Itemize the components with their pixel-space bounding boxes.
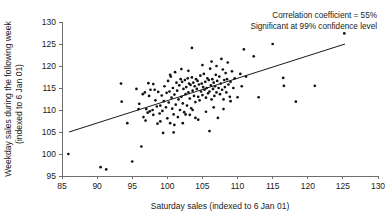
scatter-point — [282, 77, 285, 80]
scatter-point — [160, 94, 163, 97]
scatter-point — [179, 78, 182, 81]
scatter-point — [149, 88, 152, 91]
scatter-point — [157, 91, 160, 94]
scatter-point — [198, 99, 201, 102]
scatter-point — [252, 55, 255, 58]
scatter-point — [207, 79, 210, 82]
scatter-point — [239, 73, 242, 76]
scatter-point — [186, 104, 189, 107]
scatter-point — [203, 73, 206, 76]
scatter-point — [222, 98, 225, 101]
scatter-point — [212, 106, 215, 109]
scatter-chart: 95100105110115120125130 8590951001051101… — [0, 0, 390, 215]
scatter-point — [228, 95, 231, 98]
scatter-point — [231, 70, 234, 73]
y-tick-label: 120 — [42, 61, 56, 71]
x-tick-label: 95 — [127, 181, 137, 191]
scatter-point — [215, 91, 218, 94]
scatter-point — [220, 58, 223, 61]
scatter-point — [193, 85, 196, 88]
scatter-point — [151, 109, 154, 112]
scatter-point — [208, 130, 211, 133]
scatter-point — [294, 100, 297, 103]
scatter-point — [195, 88, 198, 91]
scatter-point — [148, 110, 151, 113]
scatter-point — [232, 87, 235, 90]
scatter-point — [214, 73, 217, 76]
scatter-point — [172, 113, 175, 116]
scatter-point — [211, 78, 214, 81]
scatter-point — [243, 48, 246, 51]
x-tick-label: 105 — [195, 181, 209, 191]
x-tick-label: 120 — [301, 181, 315, 191]
axes-group: 95100105110115120125130 8590951001051101… — [42, 17, 386, 191]
scatter-point — [173, 124, 176, 127]
scatter-point — [167, 101, 170, 104]
scatter-point — [174, 71, 177, 74]
scatter-point — [99, 166, 102, 169]
scatter-point — [229, 100, 232, 103]
scatter-point — [205, 110, 208, 113]
scatter-point — [194, 117, 197, 120]
scatter-point — [216, 80, 219, 83]
scatter-point — [224, 86, 227, 89]
scatter-point — [215, 65, 218, 68]
scatter-point — [153, 88, 156, 91]
y-tick-label: 130 — [42, 17, 56, 27]
scatter-point — [224, 72, 227, 75]
scatter-point — [222, 108, 225, 111]
scatter-point — [221, 68, 224, 71]
scatter-point — [175, 81, 178, 84]
scatter-point — [221, 88, 224, 91]
scatter-point — [201, 64, 204, 67]
scatter-point — [225, 91, 228, 94]
scatter-point — [152, 113, 155, 116]
scatter-point — [343, 32, 346, 35]
scatter-point — [198, 83, 201, 86]
scatter-point — [223, 79, 226, 82]
scatter-point — [179, 109, 182, 112]
scatter-point — [163, 85, 166, 88]
scatter-point — [169, 122, 172, 125]
scatter-point — [171, 107, 174, 110]
scatter-point — [226, 78, 229, 81]
scatter-point — [188, 97, 191, 100]
scatter-point — [142, 116, 145, 119]
scatter-point — [176, 89, 179, 92]
scatter-point — [181, 80, 184, 83]
scatter-point — [144, 119, 147, 122]
scatter-point — [67, 153, 70, 156]
scatter-point — [152, 83, 155, 86]
scatter-point — [178, 84, 181, 87]
scatter-point — [141, 93, 144, 96]
scatter-point — [131, 160, 134, 163]
y-tick-label: 105 — [42, 127, 56, 137]
scatter-point — [196, 80, 199, 83]
trend-line — [69, 44, 345, 132]
scatter-point — [161, 110, 164, 113]
scatter-point — [193, 95, 196, 98]
scatter-point — [199, 74, 202, 77]
scatter-point — [226, 61, 229, 64]
y-axis-ticks: 95100105110115120125130 — [42, 17, 62, 181]
scatter-point — [126, 122, 129, 125]
x-tick-label: 85 — [57, 181, 67, 191]
y-axis-title-line1: Weekday sales during the following week — [3, 21, 13, 177]
scatter-point — [156, 122, 159, 125]
scatter-point — [227, 83, 230, 86]
scatter-point — [168, 90, 171, 93]
scatter-point — [138, 102, 141, 105]
annotation-correlation: Correlation coefficient = 55% — [272, 11, 377, 20]
scatter-point — [219, 93, 222, 96]
scatter-point — [197, 95, 200, 98]
x-tick-label: 130 — [371, 181, 385, 191]
scatter-point — [271, 43, 274, 46]
scatter-point — [191, 109, 194, 112]
x-tick-label: 100 — [160, 181, 174, 191]
scatter-point — [191, 76, 194, 79]
scatter-point — [209, 67, 212, 70]
scatter-point — [144, 91, 147, 94]
scatter-point — [140, 145, 143, 148]
scatter-point — [181, 122, 184, 125]
x-axis-ticks: 859095100105110115120125130 — [57, 176, 385, 191]
